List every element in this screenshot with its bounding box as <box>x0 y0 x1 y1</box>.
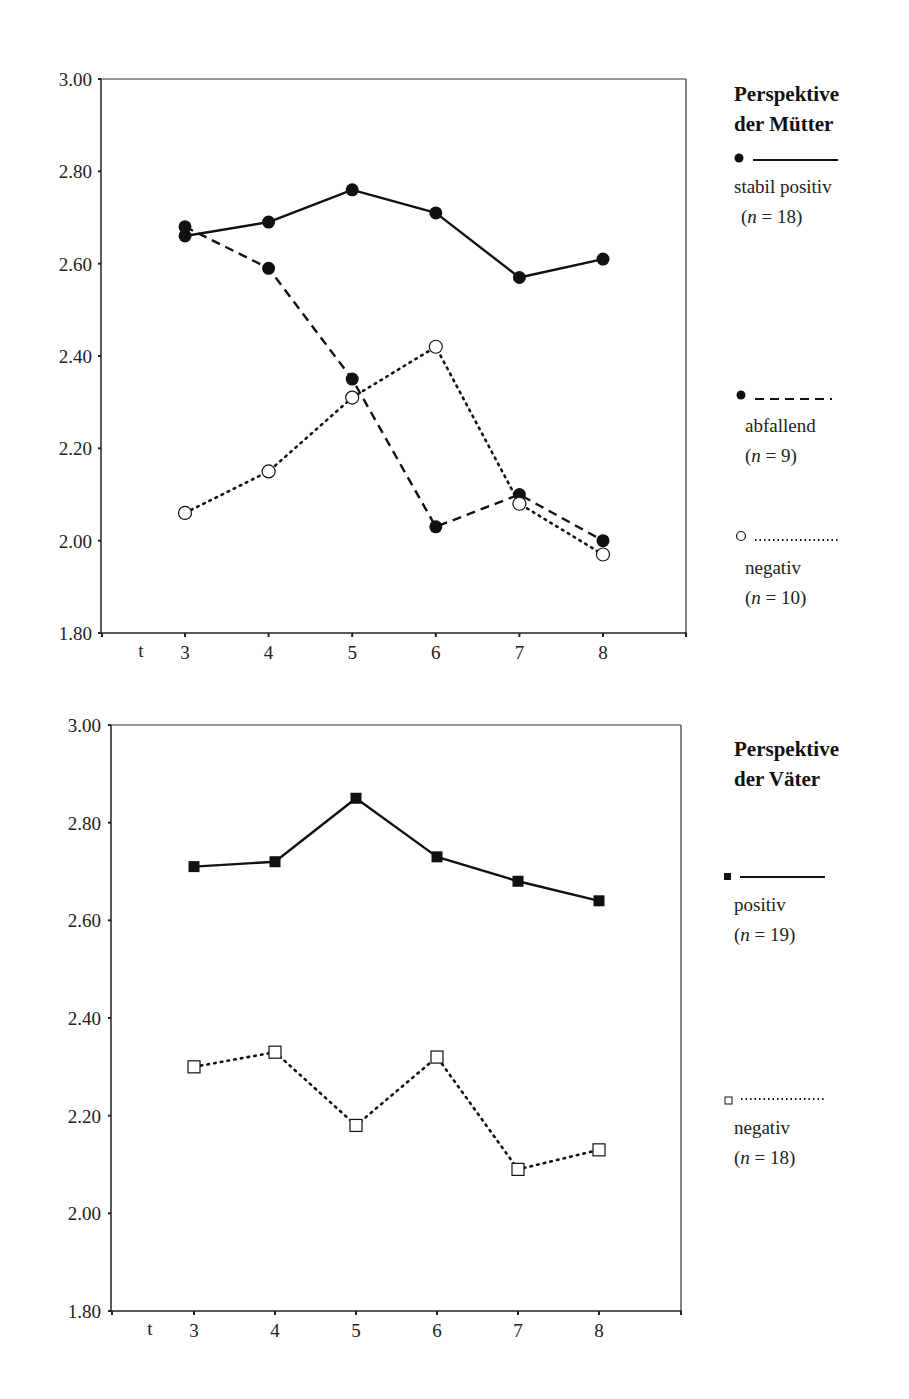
filled-circle-marker-icon <box>513 271 526 284</box>
legend-fathers: Perspektive der Väter positiv (n = 19) n… <box>724 737 839 1169</box>
filled-circle-marker-icon <box>737 391 746 400</box>
y-tick-label: 3.00 <box>59 69 92 90</box>
legend-title-line1: Perspektive <box>734 82 839 106</box>
legend-label-stabil-positiv: stabil positiv <box>734 176 832 197</box>
open-circle-marker-icon <box>737 532 746 541</box>
legend-n-stabil-positiv: (n = 18) <box>741 206 802 228</box>
filled-circle-marker-icon <box>262 216 275 229</box>
x-tick-label: 4 <box>264 642 274 663</box>
y-tick-label: 2.40 <box>68 1008 101 1029</box>
filled-square-marker-icon <box>351 793 362 804</box>
filled-circle-marker-icon <box>262 262 275 275</box>
filled-square-marker-icon <box>513 876 524 887</box>
y-tick-label: 2.40 <box>59 346 92 367</box>
filled-circle-marker-icon <box>346 183 359 196</box>
x-tick-label: 4 <box>270 1320 280 1341</box>
filled-square-marker-icon <box>594 895 605 906</box>
chart-fathers: 1.802.002.202.402.602.803.00345678t <box>68 715 682 1341</box>
x-tick-label: 6 <box>432 1320 442 1341</box>
open-circle-marker-icon <box>262 465 275 478</box>
figure-canvas: 1.802.002.202.402.602.803.00345678t 1.80… <box>0 0 909 1399</box>
filled-square-marker-icon <box>189 861 200 872</box>
x-tick-label: 3 <box>180 642 190 663</box>
legend-n-negativ: (n = 10) <box>745 587 806 609</box>
y-tick-label: 2.00 <box>68 1203 101 1224</box>
open-square-marker-icon <box>188 1061 200 1073</box>
open-square-marker-icon <box>593 1144 605 1156</box>
y-tick-label: 1.80 <box>68 1301 101 1322</box>
x-tick-label: 7 <box>513 1320 523 1341</box>
legend-title-line2: der Väter <box>734 767 820 791</box>
open-square-marker-icon <box>431 1051 443 1063</box>
chart-mothers: 1.802.002.202.402.602.803.00345678t <box>59 69 687 663</box>
x-tick-label: 8 <box>598 642 608 663</box>
legend-n-positiv: (n = 19) <box>734 924 795 946</box>
filled-circle-marker-icon <box>597 534 610 547</box>
legend-title-line1: Perspektive <box>734 737 839 761</box>
filled-square-marker-icon <box>270 856 281 867</box>
y-tick-label: 2.20 <box>59 438 92 459</box>
x-tick-label: 5 <box>351 1320 361 1341</box>
filled-circle-marker-icon <box>735 154 744 163</box>
open-circle-marker-icon <box>346 391 359 404</box>
open-square-marker-icon <box>350 1119 362 1131</box>
y-tick-label: 2.80 <box>59 161 92 182</box>
y-tick-label: 2.80 <box>68 813 101 834</box>
y-tick-label: 2.60 <box>68 910 101 931</box>
series-line-positiv <box>194 798 599 901</box>
legend-mothers: Perspektive der Mütter stabil positiv (n… <box>734 82 839 609</box>
legend-label-abfallend: abfallend <box>745 415 816 436</box>
y-tick-label: 2.20 <box>68 1106 101 1127</box>
x-axis-label: t <box>147 1318 153 1339</box>
x-tick-label: 3 <box>189 1320 199 1341</box>
series-line-stabil-positiv <box>185 190 603 278</box>
legend-label-negativ: negativ <box>745 557 801 578</box>
legend-label-positiv: positiv <box>734 894 786 915</box>
x-tick-label: 8 <box>594 1320 604 1341</box>
legend-title-line2: der Mütter <box>734 112 833 136</box>
y-tick-label: 1.80 <box>59 623 92 644</box>
series-line-negativ <box>194 1052 599 1169</box>
open-circle-marker-icon <box>429 340 442 353</box>
y-tick-label: 3.00 <box>68 715 101 736</box>
filled-square-marker-icon <box>724 873 731 880</box>
open-circle-marker-icon <box>597 548 610 561</box>
legend-n-negativ: (n = 18) <box>734 1147 795 1169</box>
filled-circle-marker-icon <box>429 520 442 533</box>
x-tick-label: 7 <box>515 642 525 663</box>
open-square-marker-icon <box>269 1046 281 1058</box>
open-square-marker-icon <box>512 1163 524 1175</box>
legend-label-negativ: negativ <box>734 1117 790 1138</box>
x-tick-label: 5 <box>347 642 357 663</box>
open-circle-marker-icon <box>179 506 192 519</box>
filled-circle-marker-icon <box>179 220 192 233</box>
filled-square-marker-icon <box>432 851 443 862</box>
y-tick-label: 2.00 <box>59 531 92 552</box>
open-square-marker-icon <box>725 1097 732 1104</box>
filled-circle-marker-icon <box>597 253 610 266</box>
x-tick-label: 6 <box>431 642 441 663</box>
x-axis-label: t <box>138 640 144 661</box>
legend-n-abfallend: (n = 9) <box>745 445 797 467</box>
y-tick-label: 2.60 <box>59 254 92 275</box>
open-circle-marker-icon <box>513 497 526 510</box>
filled-circle-marker-icon <box>429 206 442 219</box>
filled-circle-marker-icon <box>346 373 359 386</box>
